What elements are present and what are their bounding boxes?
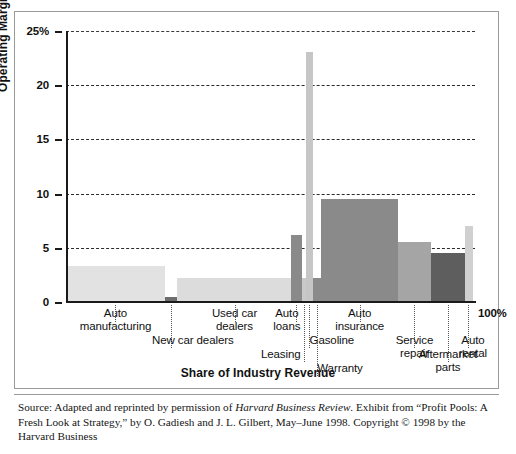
bar-used-car-dealers: [177, 278, 291, 302]
category-label-auto-manufacturing: Auto manufacturing: [55, 307, 175, 333]
source-publication: Harvard Business Review: [235, 401, 350, 413]
y-tick-0: [55, 302, 62, 304]
bar-auto-insurance: [321, 199, 398, 302]
source-divider: [14, 394, 499, 395]
category-label-auto-rental: Auto rental: [413, 334, 516, 360]
y-tick-15: [55, 139, 62, 141]
exhibit-figure: 0510152025% Operating Margin Auto manufa…: [0, 0, 516, 454]
bar-warranty: [306, 52, 313, 302]
bar-auto-loans: [291, 235, 301, 302]
y-tick-label-15: 15: [37, 133, 49, 145]
y-tick-25: [55, 31, 62, 33]
source-text-a: Source: Adapted and reprinted by permiss…: [18, 401, 235, 413]
y-tick-20: [55, 85, 62, 87]
y-tick-label-5: 5: [43, 242, 49, 254]
y-axis-title: Operating Margin: [0, 0, 10, 92]
y-tick-label-10: 10: [37, 188, 49, 200]
category-label-new-car-dealers: New car dealers: [133, 334, 253, 347]
bar-auto-manufacturing: [66, 266, 165, 302]
bar-service-repair: [398, 242, 431, 302]
y-tick-10: [55, 194, 62, 196]
gridline-10: [66, 194, 475, 195]
category-label-auto-insurance: Auto insurance: [300, 307, 420, 333]
y-tick-5: [55, 248, 62, 250]
bar-aftermarket-parts: [431, 253, 465, 302]
gridline-15: [66, 139, 475, 140]
y-tick-label-0: 0: [43, 296, 49, 308]
y-axis-line: [66, 31, 68, 303]
source-note: Source: Adapted and reprinted by permiss…: [18, 400, 500, 444]
x-axis-title: Share of Industry Revenue: [0, 366, 516, 380]
bar-gasoline: [313, 278, 321, 302]
x-axis-end-label: 100%: [478, 307, 507, 319]
gridline-20: [66, 85, 475, 86]
y-tick-label-20: 20: [37, 79, 49, 91]
gridline-25: [66, 31, 475, 32]
bar-auto-rental: [465, 226, 473, 302]
source-text-line2: Look at Strategy,” by O. Gadiesh and J. …: [18, 416, 465, 443]
category-label-leasing: Leasing: [221, 348, 341, 361]
x-axis-line: [66, 301, 476, 303]
plot-area: [66, 31, 475, 302]
y-tick-label-25: 25%: [27, 25, 49, 37]
